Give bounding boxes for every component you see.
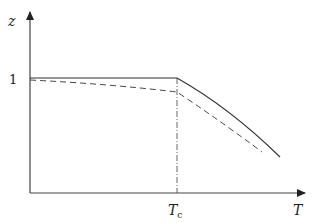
x-axis-label: T: [293, 202, 304, 218]
y-axis-label: z: [7, 13, 16, 29]
tc-label-sub: c: [177, 210, 182, 220]
y-tick-1: 1: [9, 72, 17, 87]
series-dashed: [30, 80, 262, 152]
plot-area: z 1 T Tc: [0, 0, 316, 223]
tc-label: Tc: [168, 202, 182, 220]
chart: z 1 T Tc: [0, 0, 316, 223]
